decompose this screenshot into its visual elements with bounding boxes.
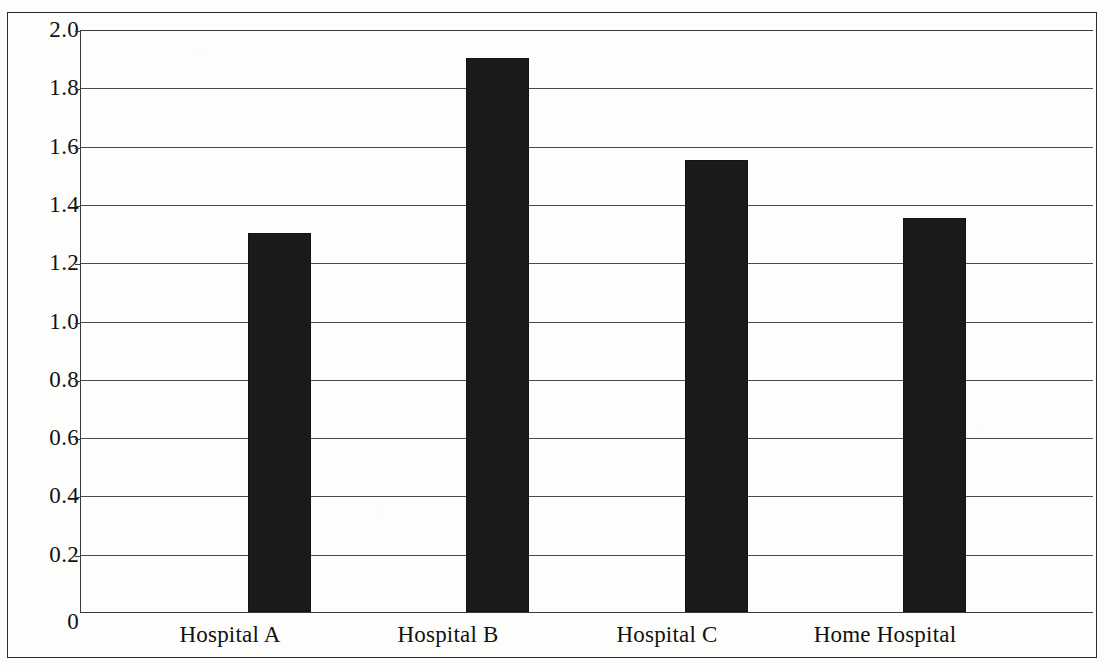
y-axis-tick-label: 1.0 — [9, 309, 79, 335]
bar-hospital-c — [685, 160, 748, 612]
y-axis-tick-label: 0.2 — [9, 542, 79, 568]
y-tick-mark — [75, 323, 81, 324]
x-axis-label-hospital-a: Hospital A — [139, 622, 322, 648]
scanned-page: 2.0 1.8 1.6 1.4 1.2 1.0 0.8 0.6 0.4 0.2 … — [0, 0, 1114, 665]
gridline-1-8 — [81, 88, 1093, 89]
bar-hospital-a — [248, 233, 311, 612]
gridline-2-0 — [81, 30, 1093, 31]
y-axis-tick-label: 1.4 — [9, 192, 79, 218]
x-axis-label-hospital-b: Hospital B — [357, 622, 540, 648]
y-tick-mark — [75, 381, 81, 382]
y-tick-mark — [75, 556, 81, 557]
y-axis-tick-label: 1.2 — [9, 250, 79, 276]
y-axis-tick-label: 1.6 — [9, 134, 79, 160]
bar-hospital-b — [466, 58, 529, 612]
y-axis-tick-label: 1.8 — [9, 75, 79, 101]
y-tick-mark — [75, 89, 81, 90]
y-tick-mark — [75, 31, 81, 32]
y-axis-tick-label: 0.4 — [9, 483, 79, 509]
y-axis-tick-label: 2.0 — [9, 17, 79, 43]
plot-area — [80, 30, 1093, 613]
bar-home-hospital — [903, 218, 966, 612]
y-axis-tick-label: 0 — [9, 609, 79, 635]
y-tick-mark — [75, 148, 81, 149]
y-tick-mark — [75, 439, 81, 440]
gridline-1-4 — [81, 205, 1093, 206]
x-axis-label-hospital-c: Hospital C — [576, 622, 759, 648]
y-tick-mark — [75, 264, 81, 265]
bar-chart: 2.0 1.8 1.6 1.4 1.2 1.0 0.8 0.6 0.4 0.2 … — [0, 0, 1114, 665]
y-axis-tick-label: 0.8 — [9, 367, 79, 393]
gridline-1-6 — [81, 147, 1093, 148]
x-axis-label-home-hospital: Home Hospital — [794, 622, 977, 648]
y-tick-mark — [75, 206, 81, 207]
y-tick-mark — [75, 497, 81, 498]
y-axis-tick-label: 0.6 — [9, 425, 79, 451]
